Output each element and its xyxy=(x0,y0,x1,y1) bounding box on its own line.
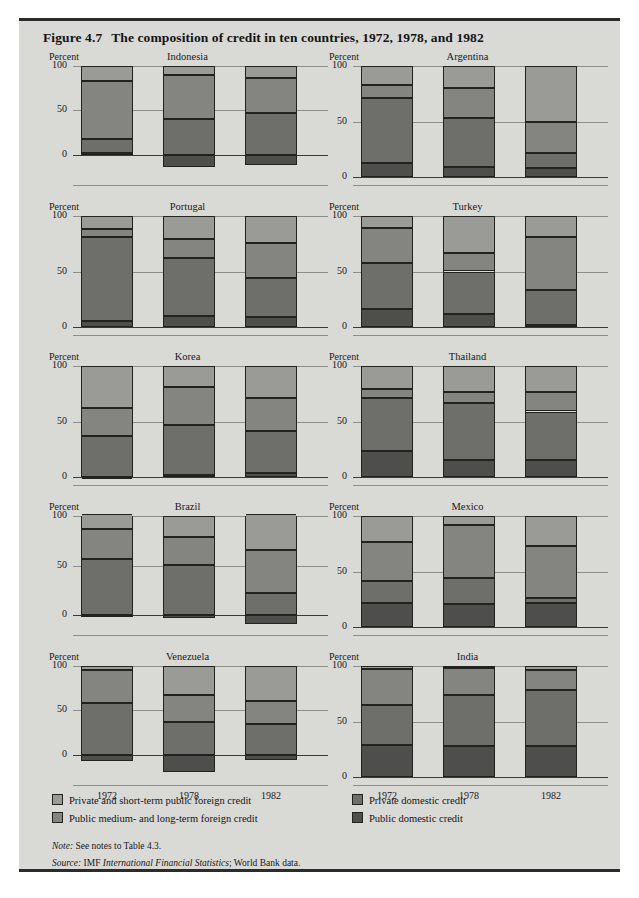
segment-private_domestic xyxy=(444,695,494,746)
segment-private_domestic xyxy=(444,118,494,167)
y-tick-100: 100 xyxy=(41,509,67,520)
segment-public_domestic xyxy=(526,325,576,327)
segment-public_domestic xyxy=(362,309,412,327)
segment-private_domestic xyxy=(444,578,494,604)
source-line: Source: IMF International Financial Stat… xyxy=(52,858,300,868)
y-tick-100: 100 xyxy=(321,359,347,370)
segment-private_foreign xyxy=(246,666,296,701)
segment-private_foreign xyxy=(82,66,132,81)
panel-baseline xyxy=(73,785,328,786)
segment-public_domestic xyxy=(164,755,214,772)
segment-public_domestic xyxy=(362,745,412,777)
segment-private_foreign xyxy=(362,216,412,228)
segment-private_domestic xyxy=(362,705,412,745)
segment-public_domestic xyxy=(246,317,296,327)
segment-private_foreign xyxy=(526,666,576,670)
segment-private_domestic xyxy=(82,237,132,321)
panel-baseline xyxy=(73,185,328,186)
y-tick-50: 50 xyxy=(321,565,347,576)
segment-private_foreign xyxy=(164,66,214,75)
segment-public_foreign xyxy=(246,701,296,724)
legend-label-private_foreign: Private and short-term public foreign cr… xyxy=(69,795,251,806)
segment-private_foreign xyxy=(362,66,412,85)
segment-public_foreign xyxy=(164,537,214,565)
segment-private_foreign xyxy=(444,516,494,525)
segment-public_domestic xyxy=(444,746,494,777)
plot-area: 100500 xyxy=(321,201,614,351)
legend: Private and short-term public foreign cr… xyxy=(19,793,620,839)
chart-panel-turkey: PercentTurkey100500 xyxy=(321,201,614,351)
source-publication: International Financial Statistics xyxy=(103,858,229,868)
segment-private_foreign xyxy=(82,514,132,529)
panel-baseline xyxy=(353,185,608,186)
bar-argentina-1972 xyxy=(361,66,413,177)
bottom-rule xyxy=(19,869,620,872)
y-tick-50: 50 xyxy=(321,265,347,276)
segment-public_domestic xyxy=(82,477,132,479)
source-text-1: IMF xyxy=(81,858,103,868)
bar-turkey-1972 xyxy=(361,216,413,327)
y-tick-100: 100 xyxy=(41,209,67,220)
segment-private_domestic xyxy=(246,724,296,755)
segment-private_domestic xyxy=(164,258,214,316)
segment-private_domestic xyxy=(82,436,132,477)
bar-thailand-1978 xyxy=(443,366,495,477)
y-tick-0: 0 xyxy=(321,170,347,181)
segment-private_foreign xyxy=(164,666,214,695)
top-rule xyxy=(19,18,620,21)
y-tick-50: 50 xyxy=(321,415,347,426)
plot-area: 100500 xyxy=(321,51,614,201)
segment-private_domestic xyxy=(164,425,214,475)
source-label: Source: xyxy=(52,858,81,868)
y-tick-100: 100 xyxy=(321,209,347,220)
panel-baseline xyxy=(353,485,608,486)
segment-private_domestic xyxy=(246,113,296,155)
bar-india-1972 xyxy=(361,666,413,777)
bar-argentina-1982 xyxy=(525,66,577,177)
y-tick-0: 0 xyxy=(321,770,347,781)
bar-mexico-1978 xyxy=(443,516,495,627)
segment-private_domestic xyxy=(444,272,494,314)
bar-venezuela-1982 xyxy=(245,666,297,760)
panels-grid: PercentIndonesia100500PercentArgentina10… xyxy=(19,51,620,791)
source-text-2: ; World Bank data. xyxy=(229,858,300,868)
segment-public_foreign xyxy=(164,239,214,258)
segment-public_domestic xyxy=(526,746,576,777)
y-tick-100: 100 xyxy=(321,59,347,70)
segment-private_foreign xyxy=(444,366,494,392)
segment-public_domestic xyxy=(82,321,132,327)
y-tick-50: 50 xyxy=(41,703,67,714)
bar-korea-1982 xyxy=(245,366,297,477)
gridline-0 xyxy=(353,177,608,178)
note-text: See notes to Table 4.3. xyxy=(73,841,161,851)
panel-baseline xyxy=(73,485,328,486)
segment-public_domestic xyxy=(164,475,214,477)
segment-private_domestic xyxy=(526,153,576,169)
bar-turkey-1982 xyxy=(525,216,577,327)
y-tick-100: 100 xyxy=(41,59,67,70)
segment-public_foreign xyxy=(246,78,296,114)
segment-public_domestic xyxy=(246,755,296,760)
segment-public_domestic xyxy=(362,163,412,177)
segment-public_domestic xyxy=(362,451,412,477)
gridline-0 xyxy=(353,627,608,628)
bar-brazil-1982 xyxy=(245,516,297,624)
segment-private_domestic xyxy=(526,290,576,324)
segment-public_foreign xyxy=(526,122,576,153)
y-tick-0: 0 xyxy=(41,320,67,331)
segment-private_domestic xyxy=(164,722,214,755)
y-tick-100: 100 xyxy=(321,659,347,670)
bar-korea-1978 xyxy=(163,366,215,477)
segment-private_domestic xyxy=(82,559,132,615)
segment-public_foreign xyxy=(444,525,494,578)
segment-private_domestic xyxy=(444,403,494,461)
bar-brazil-1972 xyxy=(81,516,133,617)
segment-private_foreign xyxy=(82,366,132,408)
segment-public_foreign xyxy=(164,695,214,722)
y-tick-50: 50 xyxy=(321,115,347,126)
bar-venezuela-1978 xyxy=(163,666,215,772)
segment-private_foreign xyxy=(526,366,576,392)
y-tick-100: 100 xyxy=(41,359,67,370)
bar-india-1982 xyxy=(525,666,577,777)
bar-korea-1972 xyxy=(81,366,133,477)
